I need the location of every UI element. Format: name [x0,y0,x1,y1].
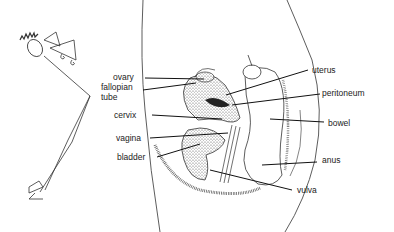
pelvic-anatomy-diagram: ovary fallopian tube cervix vagina bladd… [0,0,394,232]
label-bladder: bladder [117,153,145,162]
label-vagina: vagina [116,134,141,143]
label-anus: anus [322,156,340,165]
ovary-shape [196,72,214,82]
label-vulva: vulva [297,186,317,195]
label-fallopian-tube-line2: tube [101,93,118,102]
label-ovary: ovary [113,73,134,82]
label-cervix: cervix [114,111,136,120]
label-bowel: bowel [328,119,350,128]
diagram-drawing [0,0,394,232]
label-peritoneum: peritoneum [322,89,365,98]
bowel-shape [244,68,284,185]
stick-figure-icon [20,32,90,199]
label-fallopian-tube-line1: fallopian [101,83,133,92]
label-uterus: uterus [312,66,336,75]
